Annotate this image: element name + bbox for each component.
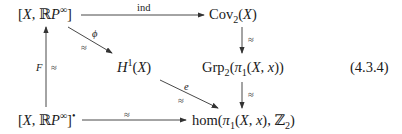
comma: , xyxy=(249,112,256,128)
node-top-right: Cov2(X) xyxy=(209,7,257,22)
label-phi: ϕ xyxy=(92,29,97,40)
node-bottom-right: hom(π1(X, x), ℤ2) xyxy=(192,113,295,128)
label-F: F xyxy=(36,63,42,74)
arrow-e xyxy=(160,80,218,108)
label-grp-hom-iso: ≈ xyxy=(248,90,254,101)
comma: , xyxy=(32,6,39,22)
paren-close: ) xyxy=(290,112,295,128)
label-ind: ind xyxy=(137,3,150,14)
paren-close: )) xyxy=(274,59,284,75)
label-cov-grp-iso: ≈ xyxy=(248,35,254,46)
var-P: P xyxy=(51,112,60,128)
var-P: P xyxy=(51,6,60,22)
reals-symbol: ℝ xyxy=(39,6,51,22)
node-middle-right: Grp2(π1(X, x)) xyxy=(202,60,284,75)
paren-close: ) xyxy=(252,6,257,22)
equation-number: (4.3.4) xyxy=(350,60,389,75)
label-e-iso: ≈ xyxy=(178,96,184,107)
var-X: X xyxy=(137,59,146,75)
node-top-left: [X, ℝP∞] xyxy=(18,7,72,22)
grp-label: Grp xyxy=(202,59,225,75)
label-e: e xyxy=(184,82,189,93)
paren-close: ) xyxy=(146,59,151,75)
var-X: X xyxy=(23,112,32,128)
bracket-close: ] xyxy=(67,6,72,22)
comma: , xyxy=(261,59,268,75)
infinity-sup: ∞ xyxy=(60,110,67,121)
comma: , xyxy=(32,112,39,128)
arrow-phi xyxy=(68,27,112,53)
infinity-sup: ∞ xyxy=(60,4,67,15)
reals-symbol: ℝ xyxy=(39,112,51,128)
cov-label: Cov xyxy=(209,6,233,22)
pi-symbol: π xyxy=(223,112,230,128)
label-phi-iso: ≈ xyxy=(81,43,87,54)
hom-label: hom( xyxy=(192,112,223,128)
var-H: H xyxy=(117,59,127,75)
var-X: X xyxy=(252,59,261,75)
pi-symbol: π xyxy=(234,59,241,75)
integers-symbol: ℤ xyxy=(274,112,285,128)
paren-close-comma: ), xyxy=(262,112,274,128)
node-bottom-left: [X, ℝP∞]• xyxy=(18,113,75,128)
var-X: X xyxy=(243,6,252,22)
var-X: X xyxy=(23,6,32,22)
node-middle-left: H1(X) xyxy=(117,60,151,75)
label-bottom-iso: ≈ xyxy=(124,110,130,121)
bullet-sup: • xyxy=(72,110,76,121)
label-F-iso: ≈ xyxy=(51,63,57,74)
var-X: X xyxy=(240,112,249,128)
